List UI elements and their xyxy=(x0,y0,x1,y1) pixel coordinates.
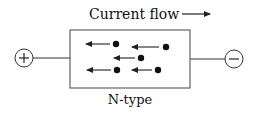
n-type-label: N-type xyxy=(108,92,153,107)
current-flow-label: Current flow xyxy=(89,6,179,22)
electron-dot-icon xyxy=(163,44,169,50)
semiconductor-block xyxy=(70,30,190,88)
electron-dot-icon xyxy=(155,67,161,73)
electron-dot-icon xyxy=(138,55,144,61)
electron-dot-icon xyxy=(114,67,120,73)
electron-dot-icon xyxy=(113,41,119,47)
negative-terminal xyxy=(225,50,243,68)
n-type-semiconductor-diagram: Current flow N-type xyxy=(0,0,259,116)
positive-terminal xyxy=(15,49,33,67)
